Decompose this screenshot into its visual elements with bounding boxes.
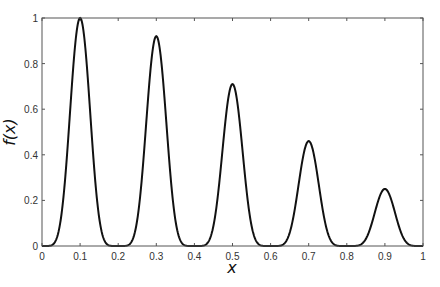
x-tick-label: 0.7 [302,251,316,262]
x-tick-label: 0.4 [187,251,201,262]
x-tick-label: 0.1 [73,251,87,262]
y-tick-label: 0.4 [24,150,38,161]
x-tick-label: 1 [420,251,426,262]
x-tick-label: 0.6 [264,251,278,262]
series-line [42,18,423,246]
y-tick-label: 0.2 [24,195,38,206]
x-axis-label: x [226,258,237,277]
y-tick-label: 0.8 [24,59,38,70]
y-tick-label: 1 [32,13,38,24]
x-axis: 00.10.20.30.40.50.60.70.80.91 [39,18,426,262]
y-axis-label: f(x) [0,118,19,146]
x-tick-label: 0.8 [340,251,354,262]
x-tick-label: 0.2 [111,251,125,262]
line-chart: 00.20.40.60.81 00.10.20.30.40.50.60.70.8… [0,0,440,287]
y-tick-label: 0 [32,241,38,252]
x-tick-label: 0.9 [378,251,392,262]
x-tick-label: 0.3 [149,251,163,262]
x-tick-label: 0 [39,251,45,262]
y-tick-label: 0.6 [24,104,38,115]
